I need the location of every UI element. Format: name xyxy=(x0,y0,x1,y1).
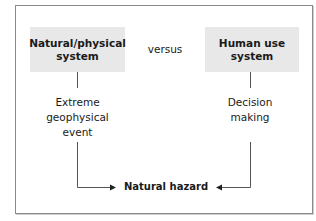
left-arrow-line xyxy=(78,142,111,188)
left-arrowhead-icon xyxy=(110,185,116,191)
right-arrowhead-icon xyxy=(216,185,222,191)
connectors xyxy=(0,0,316,221)
right-arrow-line xyxy=(222,142,251,188)
